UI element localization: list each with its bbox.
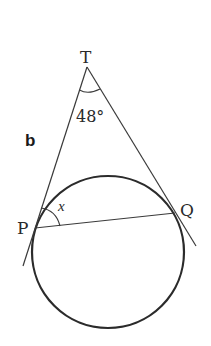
part-label-b: b bbox=[25, 131, 35, 150]
tangent-line-tp bbox=[23, 67, 87, 266]
point-label-q: Q bbox=[180, 200, 194, 220]
chord-pq bbox=[35, 213, 175, 228]
circle bbox=[32, 176, 184, 328]
angle-label-48: 48° bbox=[76, 107, 104, 126]
angle-label-x: x bbox=[57, 198, 65, 214]
circle-tangent-diagram: T 48° b P Q x bbox=[0, 0, 211, 346]
diagram-canvas: T 48° b P Q x bbox=[0, 0, 211, 346]
angle-arc-t bbox=[80, 89, 101, 92]
point-label-t: T bbox=[80, 47, 92, 67]
point-label-p: P bbox=[17, 218, 28, 238]
